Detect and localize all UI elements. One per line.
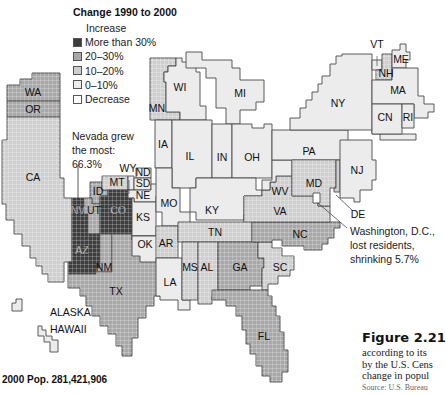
label-sc: SC bbox=[273, 261, 288, 273]
legend-item-more-than-30: More than 30% bbox=[73, 35, 156, 49]
label-id: ID bbox=[93, 185, 104, 197]
caption-line: by the U.S. Cens bbox=[362, 359, 443, 371]
legend-item-20-30: 20–30% bbox=[73, 49, 156, 63]
label-nv: NV bbox=[71, 204, 86, 216]
label-md: MD bbox=[306, 177, 323, 189]
label-ga: GA bbox=[232, 261, 247, 273]
label-hawaii: HAWAII bbox=[50, 323, 87, 335]
label-cn: CN bbox=[377, 111, 392, 123]
legend-item-0-10: 0–10% bbox=[73, 78, 156, 92]
legend-title: Change 1990 to 2000 bbox=[73, 6, 177, 18]
legend-swatch bbox=[73, 95, 82, 104]
label-ca: CA bbox=[26, 171, 41, 183]
label-pa: PA bbox=[302, 145, 315, 157]
state-dc[interactable] bbox=[313, 193, 320, 203]
label-nm: NM bbox=[96, 261, 112, 273]
legend-label: 20–30% bbox=[85, 49, 124, 63]
label-ut: UT bbox=[87, 204, 102, 216]
label-me: ME bbox=[393, 53, 409, 65]
nevada-annotation: Nevada grew the most: 66.3% bbox=[72, 129, 134, 171]
legend-label: 10–20% bbox=[85, 64, 124, 78]
label-de: DE bbox=[351, 208, 366, 220]
label-ky: KY bbox=[205, 204, 219, 216]
label-ri: RI bbox=[403, 111, 414, 123]
legend-swatch bbox=[73, 38, 82, 47]
label-ne: NE bbox=[136, 189, 151, 201]
label-sd: SD bbox=[136, 177, 151, 189]
annotation-line: Washington, D.C., bbox=[350, 224, 435, 238]
legend-swatch bbox=[73, 80, 82, 89]
label-va: VA bbox=[273, 205, 286, 217]
label-mo: MO bbox=[161, 197, 178, 209]
legend-header: Increase bbox=[73, 21, 156, 35]
label-la: LA bbox=[164, 276, 177, 288]
label-nj: NJ bbox=[351, 164, 364, 176]
legend-item-10-20: 10–20% bbox=[73, 64, 156, 78]
dc-annotation: Washington, D.C., lost residents, shrink… bbox=[350, 224, 435, 266]
label-alaska: ALASKA bbox=[50, 306, 91, 318]
label-il: IL bbox=[186, 150, 195, 162]
annotation-line: shrinking 5.7% bbox=[350, 252, 435, 266]
label-in: IN bbox=[217, 151, 228, 163]
label-tn: TN bbox=[208, 226, 222, 238]
label-ar: AR bbox=[159, 237, 174, 249]
label-az: AZ bbox=[75, 244, 89, 256]
label-ma: MA bbox=[390, 84, 406, 96]
label-mt: MT bbox=[109, 176, 125, 188]
annotation-line: 66.3% bbox=[72, 157, 134, 171]
legend: Increase More than 30% 20–30% 10–20% 0–1… bbox=[73, 21, 156, 106]
label-nh: NH bbox=[378, 67, 393, 79]
annotation-line: Nevada grew bbox=[72, 129, 134, 143]
label-or: OR bbox=[25, 103, 41, 115]
label-al: AL bbox=[201, 261, 214, 273]
label-ia: IA bbox=[158, 138, 168, 150]
label-wi: WI bbox=[174, 81, 187, 93]
figure-source: Source: U.S. Bureau bbox=[362, 383, 443, 392]
label-ny: NY bbox=[331, 97, 346, 109]
state-fl[interactable] bbox=[212, 290, 288, 382]
label-mi: MI bbox=[234, 87, 246, 99]
label-wv: WV bbox=[272, 185, 289, 197]
label-ks: KS bbox=[136, 211, 150, 223]
total-population: 2000 Pop. 281,421,906 bbox=[2, 374, 107, 385]
state-ca[interactable] bbox=[2, 117, 72, 282]
figure-number: Figure 2.21 bbox=[362, 330, 446, 345]
label-co: CO bbox=[110, 204, 126, 216]
label-ms: MS bbox=[182, 261, 198, 273]
annotation-line: lost residents, bbox=[350, 238, 435, 252]
label-oh: OH bbox=[244, 151, 260, 163]
label-ok: OK bbox=[137, 238, 152, 250]
inset-alaska[interactable] bbox=[12, 299, 22, 311]
legend-swatch bbox=[73, 52, 82, 61]
figure-caption: according to its by the U.S. Cens change… bbox=[362, 347, 443, 382]
label-wa: WA bbox=[25, 86, 42, 98]
label-fl: FL bbox=[258, 330, 270, 342]
legend-label: 0–10% bbox=[85, 78, 118, 92]
legend-label: Decrease bbox=[85, 92, 130, 106]
legend-swatch bbox=[73, 66, 82, 75]
label-tx: TX bbox=[109, 285, 122, 297]
caption-line: according to its bbox=[362, 347, 443, 359]
legend-item-decrease: Decrease bbox=[73, 92, 156, 106]
caption-line: change in popul bbox=[362, 370, 443, 382]
label-nc: NC bbox=[292, 228, 308, 240]
annotation-line: the most: bbox=[72, 143, 134, 157]
legend-label: More than 30% bbox=[85, 35, 156, 49]
label-vt: VT bbox=[370, 38, 384, 50]
